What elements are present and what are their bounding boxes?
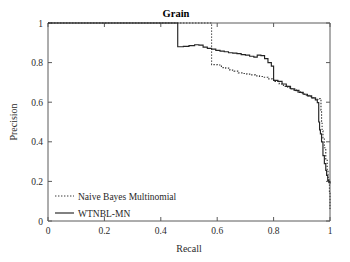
x-tick-label: 1 <box>328 226 333 236</box>
series-solid <box>48 23 330 183</box>
x-tick-label: 0.6 <box>211 226 223 236</box>
x-tick-label: 0.2 <box>98 226 110 236</box>
legend-label: WTNBL-MN <box>78 209 130 219</box>
data-series-group <box>48 23 330 209</box>
x-tick-label: 0.4 <box>155 226 167 236</box>
legend: Naive Bayes MultinomialWTNBL-MN <box>55 192 177 219</box>
tick-labels-group: 00.20.40.60.8100.20.40.60.81 <box>31 19 333 237</box>
y-tick-label: 0.6 <box>31 98 43 108</box>
y-tick-label: 0.8 <box>31 58 43 68</box>
chart-title-group: Grain <box>163 8 190 19</box>
y-tick-label: 1 <box>38 19 43 29</box>
x-tick-label: 0.8 <box>268 226 280 236</box>
y-axis-label: Precision <box>8 103 19 140</box>
series-dotted <box>48 23 330 209</box>
y-tick-label: 0 <box>38 217 43 227</box>
x-axis-label: Recall <box>176 243 202 254</box>
figure-container: Grain 00.20.40.60.8100.20.40.60.81 Recal… <box>0 0 350 262</box>
x-tick-label: 0 <box>46 226 51 236</box>
page-title: Grain <box>163 8 190 19</box>
legend-label: Naive Bayes Multinomial <box>78 192 177 202</box>
precision-recall-chart: Grain 00.20.40.60.8100.20.40.60.81 Recal… <box>0 0 350 262</box>
y-tick-label: 0.2 <box>31 177 43 187</box>
y-tick-label: 0.4 <box>31 137 43 147</box>
